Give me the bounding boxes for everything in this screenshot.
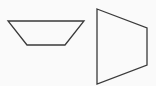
- trapezoid-horizontal: [8, 21, 84, 45]
- trapezoid-vertical: [97, 9, 147, 84]
- diagram-canvas: [0, 0, 156, 86]
